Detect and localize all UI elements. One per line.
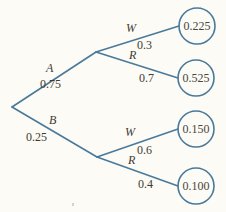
branch-label-a: A xyxy=(46,62,53,74)
branch-probability-a-r: 0.7 xyxy=(139,72,154,84)
branch-probability-a-w: 0.3 xyxy=(137,39,152,51)
page-speck xyxy=(72,203,74,206)
branch-probability-b-w: 0.6 xyxy=(137,144,152,156)
branch-label-b-w: W xyxy=(125,126,135,138)
probability-tree-diagram: A 0.75 B 0.25 W 0.3 R 0.7 W 0.6 R 0.4 0.… xyxy=(0,0,226,212)
outcome-value-aw: 0.225 xyxy=(179,20,215,32)
edge-a-to-r xyxy=(96,52,178,78)
outcome-value-bw: 0.150 xyxy=(178,123,214,135)
branch-probability-b-r: 0.4 xyxy=(138,178,153,190)
branch-label-a-w: W xyxy=(126,22,136,34)
outcome-value-br: 0.100 xyxy=(178,180,214,192)
branch-label-a-r: R xyxy=(129,49,136,61)
outcome-value-ar: 0.525 xyxy=(178,72,214,84)
branch-label-b: B xyxy=(49,114,56,126)
branch-probability-a: 0.75 xyxy=(40,78,61,90)
branch-label-b-r: R xyxy=(128,154,135,166)
branch-probability-b: 0.25 xyxy=(26,131,47,143)
